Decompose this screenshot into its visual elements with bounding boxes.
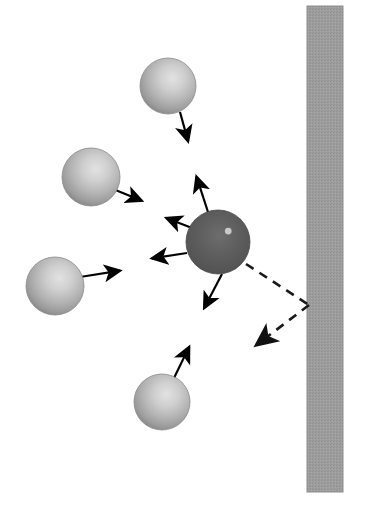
central-particle-group	[186, 210, 250, 274]
figure-canvas: Schematic of particle interaction forces…	[0, 0, 366, 506]
central-particle-highlight	[225, 228, 232, 235]
neighbor-particle-top	[140, 58, 196, 114]
wall	[307, 6, 343, 492]
neighbor-particle-upper-left	[62, 148, 120, 206]
neighbor-particle-lower-left	[26, 257, 84, 315]
neighbor-particle-bottom	[134, 374, 190, 430]
figure-diagram	[0, 0, 366, 506]
central-particle	[186, 210, 250, 274]
wall-surface	[307, 6, 343, 492]
